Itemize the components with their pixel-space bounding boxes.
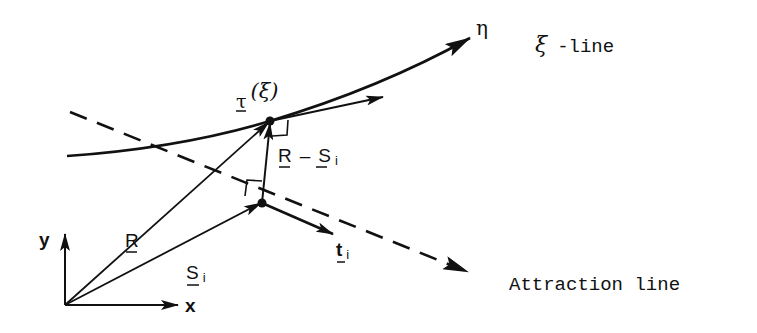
- minus-sign: –: [300, 145, 311, 166]
- y-axis-label: y: [39, 229, 50, 250]
- S-subscript: i: [335, 153, 338, 168]
- S-subscript: i: [203, 270, 206, 285]
- xi-symbol: ξ: [535, 32, 549, 57]
- eta-label: η: [476, 16, 488, 40]
- t-symbol: t: [336, 239, 343, 260]
- S-symbol: S: [186, 262, 199, 283]
- R-symbol: R: [278, 145, 292, 166]
- attraction-line-diagram: y x η ξ -line Attraction line R S i R – …: [0, 0, 757, 333]
- point-S-i: [258, 199, 267, 208]
- attraction-line: Attraction line: [70, 112, 680, 296]
- tau-label: τ (ξ): [236, 79, 278, 112]
- difference-vector: R – S i: [262, 123, 338, 203]
- S-symbol: S: [318, 145, 331, 166]
- R-minus-S-i-label: R – S i: [278, 145, 338, 168]
- tau-label-group: τ (ξ): [236, 79, 278, 112]
- R-label: R: [125, 230, 139, 251]
- tau-argument: (ξ): [251, 79, 279, 103]
- tangent-vectors: t i: [262, 97, 383, 262]
- tau-symbol: τ: [236, 90, 247, 112]
- position-vectors: R S i: [65, 122, 269, 305]
- xi-line-text: -line: [557, 36, 614, 58]
- tangent-tau-arrow: [270, 97, 383, 121]
- point-tau: [266, 117, 275, 126]
- right-angle-at-tau: [272, 120, 288, 136]
- xi-line-curve: η ξ -line: [67, 16, 614, 156]
- tangent-t-i-arrow: [262, 203, 333, 234]
- coordinate-axes: y x: [39, 229, 196, 316]
- xi-line-label: ξ -line: [535, 32, 614, 58]
- vector-S-i: [65, 203, 261, 305]
- x-axis-label: x: [185, 295, 196, 316]
- t-subscript: i: [346, 247, 349, 262]
- S-i-label: S i: [186, 262, 206, 285]
- t-i-label: t i: [336, 239, 349, 262]
- vector-R: [65, 122, 269, 305]
- attraction-line-label: Attraction line: [509, 274, 680, 296]
